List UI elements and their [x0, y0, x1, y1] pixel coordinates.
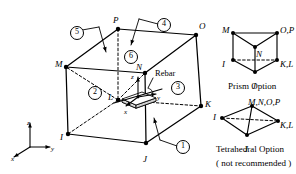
global-axis-label-z: z: [27, 120, 30, 127]
callout-leader: [139, 19, 158, 24]
callout-leader-lines: [71, 19, 177, 146]
prism-node: [231, 31, 235, 35]
tetrahedral-option-geometry: [220, 104, 280, 137]
local-axis-origin: [137, 96, 140, 99]
brick-edge: [145, 73, 146, 143]
tetra-edge: [222, 118, 247, 135]
rebar-label: Rebar: [155, 69, 175, 78]
brick-node-I: [66, 132, 70, 136]
brick-edge: [118, 29, 196, 35]
tetra-edge: [247, 106, 252, 135]
brick-node-K: [199, 104, 203, 108]
tetra-edge: [247, 121, 278, 135]
vertex-label-M: M: [55, 60, 63, 69]
callout-arrowhead: [131, 40, 135, 45]
local-axis-label-z: z: [131, 74, 134, 81]
face-callout-1: 1: [176, 140, 190, 154]
face-callout-5: 5: [70, 26, 84, 40]
local-axis-label-y: y: [157, 95, 160, 102]
tetrahedral-option-note: ( not recommended ): [216, 159, 291, 168]
prism-edge: [233, 33, 255, 47]
brick-edge: [146, 106, 201, 143]
prism-node-label: N: [256, 50, 262, 59]
vertex-label-O: O: [199, 22, 206, 31]
prism-node: [275, 31, 279, 35]
diagram-canvas: POMNLKIJ123456RebarzyxzyxMO,PNIK,LJPrism…: [0, 0, 296, 174]
vertex-label-P: P: [113, 16, 119, 25]
prism-node: [275, 58, 279, 62]
tetra-node-label: I: [213, 113, 216, 122]
local-axis-label-x: x: [124, 109, 127, 116]
face-callout-4: 4: [157, 18, 171, 32]
face-callout-3: 3: [171, 81, 185, 95]
brick-hidden-edge: [68, 100, 118, 134]
prism-node-label: K,L: [280, 60, 293, 69]
callout-leader: [160, 140, 177, 146]
axis-triads: [14, 77, 156, 157]
vertex-label-K: K: [205, 100, 211, 109]
brick-node-J: [144, 141, 148, 145]
local-axis-y-head: [151, 93, 156, 97]
brick-edge: [68, 134, 146, 143]
brick-edge: [66, 67, 68, 134]
prism-option-geometry: [231, 31, 279, 74]
tetra-edge: [222, 106, 252, 118]
brick-node-O: [194, 33, 198, 37]
vertex-label-L: L: [108, 93, 113, 102]
global-axis-label-x: x: [11, 156, 14, 163]
global-axis-label-y: y: [51, 146, 54, 153]
prism-edge: [233, 60, 255, 72]
rebar-leader: [148, 78, 153, 88]
callout-arrowhead: [153, 118, 157, 123]
global-axis-y-head: [46, 145, 51, 149]
vertex-label-J: J: [143, 155, 147, 164]
tetra-node-label: M,N,O,P: [248, 98, 280, 107]
face-callout-2: 2: [88, 86, 102, 100]
brick-node-M: [64, 65, 68, 69]
tetra-node: [220, 116, 224, 120]
prism-node-label: O,P: [280, 26, 294, 35]
brick-node-N: [143, 71, 147, 75]
callout-arrowhead: [103, 47, 107, 52]
prism-node-label: I: [222, 60, 225, 69]
prism-node: [231, 58, 235, 62]
vertex-label-I: I: [60, 133, 63, 142]
tetrahedral-option-caption: Tetrahedral Option: [216, 145, 284, 154]
prism-edge: [255, 60, 277, 72]
tetra-node-label: K,L: [280, 121, 293, 130]
tetra-node: [245, 133, 249, 137]
prism-node: [253, 70, 257, 74]
brick-node-P: [116, 27, 120, 31]
brick-edge: [196, 35, 201, 106]
prism-node-label: M: [222, 26, 230, 35]
tetra-edge: [252, 106, 278, 121]
prism-edge: [255, 33, 277, 47]
vertex-label-N: N: [136, 63, 142, 72]
face-callout-6: 6: [124, 50, 138, 64]
prism-option-caption: Prism Option: [228, 82, 276, 91]
